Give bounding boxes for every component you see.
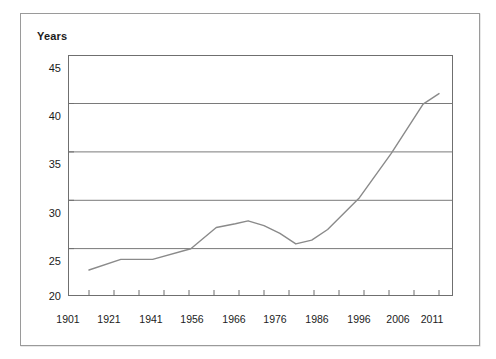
x-axis-tick-label: 1996 xyxy=(339,313,379,325)
y-axis-title: Years xyxy=(37,30,67,42)
x-axis-tick-label: 1956 xyxy=(172,313,212,325)
x-axis-tick-label: 1986 xyxy=(297,313,337,325)
y-axis-tick-label: 35 xyxy=(31,158,61,170)
y-axis-tick-label: 45 xyxy=(31,62,61,74)
x-axis-tick-label: 1976 xyxy=(255,313,295,325)
y-axis-tick-label: 40 xyxy=(31,110,61,122)
chart-figure-frame: Years 45 40 35 30 25 20 xyxy=(20,13,480,346)
x-axis-tick-label: 1966 xyxy=(214,313,254,325)
y-axis-tick-label: 20 xyxy=(31,290,61,302)
x-axis-tick-label: 1941 xyxy=(131,313,171,325)
y-axis-tick-label: 25 xyxy=(31,255,61,267)
x-axis-tick-label: 2011 xyxy=(412,313,452,325)
plot-area xyxy=(68,55,453,296)
x-axis-tick-label: 1901 xyxy=(48,313,88,325)
x-axis-tick-label: 1921 xyxy=(89,313,129,325)
y-axis-tick-label: 30 xyxy=(31,207,61,219)
